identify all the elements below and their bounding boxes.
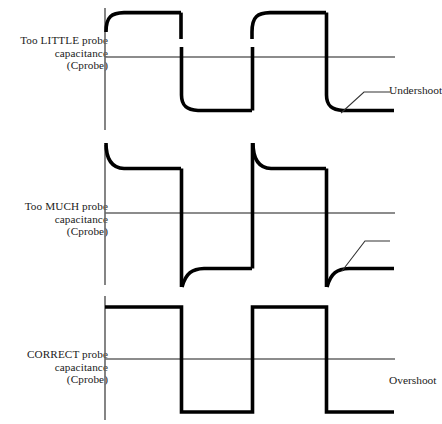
annotation-undershoot: Undershoot bbox=[389, 84, 442, 96]
waveform-too-little bbox=[0, 0, 442, 140]
panel-too-little: Too LITTLE probe capacitance (Cprobe) bbox=[0, 0, 442, 140]
probe-compensation-figure: Too LITTLE probe capacitance (Cprobe) bbox=[0, 0, 442, 424]
waveform-too-much bbox=[0, 140, 442, 290]
panel-correct: CORRECT probe capacitance (Cprobe) bbox=[0, 290, 442, 424]
trace-path bbox=[106, 143, 394, 287]
trace-path bbox=[106, 13, 394, 111]
panel-too-much: Too MUCH probe capacitance (Cprobe) bbox=[0, 140, 442, 290]
overshoot-leader-line bbox=[342, 241, 390, 271]
waveform-correct bbox=[0, 290, 442, 424]
